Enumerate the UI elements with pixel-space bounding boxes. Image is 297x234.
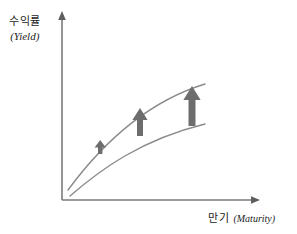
yield-curve-diagram: 수익률 (Yield) 만기 (Maturity) xyxy=(0,0,297,234)
y-axis-arrowhead xyxy=(58,11,66,20)
x-axis-label: 만기 (Maturity) xyxy=(208,208,275,226)
x-axis-arrowhead xyxy=(251,196,260,204)
shift-arrow-short xyxy=(95,140,106,154)
y-axis-label: 수익률 (Yield) xyxy=(9,16,41,42)
x-axis-label-korean: 만기 xyxy=(208,212,229,225)
diagram-canvas xyxy=(0,0,297,234)
shift-arrow-long xyxy=(183,86,200,126)
y-axis-label-korean: 수익률 xyxy=(9,16,41,29)
x-axis-label-english: (Maturity) xyxy=(233,213,275,224)
y-axis-label-english: (Yield) xyxy=(9,30,41,43)
